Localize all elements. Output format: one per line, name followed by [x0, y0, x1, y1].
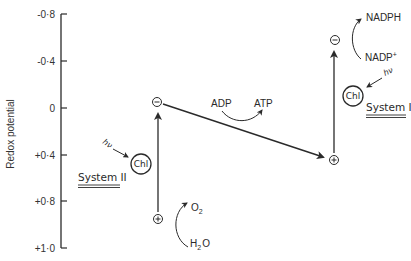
- system-ii: Chl hν System II O2 H2O: [78, 98, 210, 252]
- nadph-label: NADPH: [366, 12, 401, 23]
- z-scheme-diagram: -0·8 -0·4 0 +0·4 +0·8 +1·0 Redox potenti…: [0, 0, 411, 261]
- light-arrow: [367, 78, 382, 87]
- electron-transfer-arrow: [163, 104, 323, 157]
- chlorophyll-label: Chl: [134, 159, 149, 169]
- minus-sign-icon: [153, 98, 162, 107]
- system-i: Chl hν System I NADPH NADP+: [330, 12, 411, 165]
- water-label: H2O: [190, 238, 210, 251]
- system-i-label: System I: [366, 101, 411, 113]
- light-label: hν: [101, 137, 114, 150]
- nadp-reduction-arrow: [352, 19, 361, 59]
- light-arrow: [113, 149, 128, 157]
- tick-label: -0·8: [37, 9, 55, 20]
- light-label: hν: [382, 65, 395, 77]
- axis-label: Redox potential: [5, 99, 16, 169]
- plus-sign-icon: [330, 156, 339, 165]
- system-ii-label: System II: [78, 171, 127, 183]
- atp-label: ATP: [254, 98, 273, 109]
- electron-transport: ADP ATP: [163, 98, 323, 157]
- tick-label: +1·0: [35, 243, 56, 254]
- tick-label: +0·8: [35, 196, 56, 207]
- chlorophyll-label: Chl: [346, 91, 361, 101]
- adp-label: ADP: [211, 98, 232, 109]
- tick-label: -0·4: [37, 56, 55, 67]
- oxygen-label: O2: [191, 202, 203, 215]
- nadp-label: NADP+: [365, 51, 397, 63]
- water-oxidation-arrow: [176, 203, 188, 247]
- redox-axis: -0·8 -0·4 0 +0·4 +0·8 +1·0 Redox potenti…: [5, 9, 67, 254]
- tick-label: 0: [49, 103, 55, 114]
- tick-label: +0·4: [35, 150, 56, 161]
- minus-sign-icon: [331, 36, 340, 45]
- phosphorylation-arrow: [222, 110, 262, 121]
- plus-sign-icon: [154, 215, 163, 224]
